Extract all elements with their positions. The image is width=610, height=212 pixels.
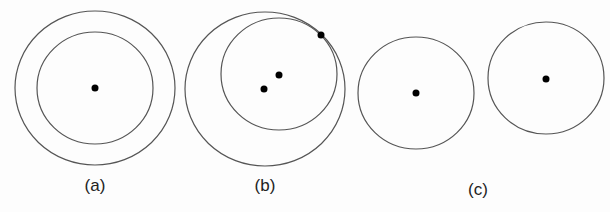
panel-2 (358, 22, 604, 149)
center-dot (92, 85, 99, 92)
panel-label-a: (a) (85, 176, 106, 196)
panel-0 (15, 11, 175, 165)
center-dot (318, 32, 325, 39)
center-dot (276, 72, 283, 79)
panel-label-c: (c) (468, 180, 488, 200)
center-dot (413, 90, 420, 97)
panel-label-b: (b) (255, 176, 276, 196)
panel-1 (185, 12, 345, 166)
center-dot (543, 76, 550, 83)
figure: (a) (b) (c) (0, 0, 610, 212)
center-dot (261, 86, 268, 93)
